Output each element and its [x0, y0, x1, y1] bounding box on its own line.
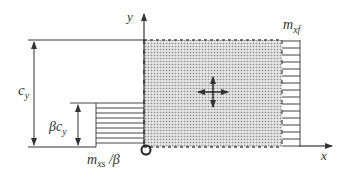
x-axis-label: x — [320, 148, 327, 163]
cy-label: cy — [18, 82, 30, 101]
left-moment-strip — [70, 103, 144, 147]
y-axis-label: y — [125, 9, 133, 24]
mxs-beta-label: mxs /β — [87, 152, 120, 169]
yield-line-diagram: y x cy βcy mxf mxs /β — [0, 0, 351, 171]
beta-cy-label: βcy — [48, 119, 67, 137]
mxf-label: mxf — [283, 17, 302, 35]
right-moment-strip — [282, 40, 300, 147]
